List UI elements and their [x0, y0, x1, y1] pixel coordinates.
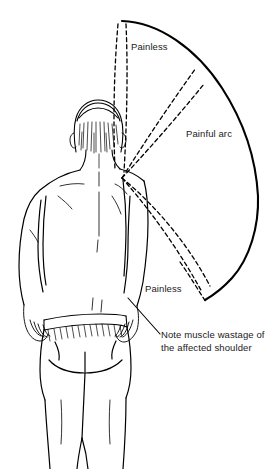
label-painless-bottom: Painless — [145, 283, 182, 295]
note-line-2: the affected shoulder — [161, 342, 252, 353]
note-leader-line — [128, 298, 160, 334]
back-anatomy-lines — [30, 172, 127, 312]
label-painless-top: Painless — [131, 41, 168, 53]
left-hand — [24, 305, 50, 341]
legs-shading — [61, 400, 110, 444]
hair-hatching — [79, 122, 118, 153]
abduction-arc — [122, 21, 258, 300]
radial-lines-dashed — [114, 24, 210, 302]
shoulder-painful-arc-diagram — [0, 0, 274, 469]
torso-outline — [19, 169, 148, 306]
note-line-1: Note muscle wastage of — [161, 329, 265, 340]
label-muscle-wastage-note: Note muscle wastage of the affected shou… — [161, 329, 273, 354]
label-painful-arc: Painful arc — [186, 128, 232, 140]
legs-outline — [45, 373, 126, 469]
waistband-hatching — [48, 324, 122, 341]
illustration-page: Painless Painful arc Painless Note muscl… — [0, 0, 274, 469]
